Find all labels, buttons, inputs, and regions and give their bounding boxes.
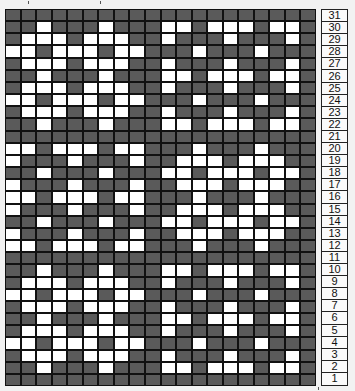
chart-cell xyxy=(177,180,191,190)
chart-cell xyxy=(193,46,207,56)
chart-cell xyxy=(22,144,36,154)
chart-cell xyxy=(68,132,82,142)
chart-cell xyxy=(255,217,269,227)
chart-cell xyxy=(130,71,144,81)
chart-cell xyxy=(37,22,51,32)
chart-cell xyxy=(68,46,82,56)
chart-cell xyxy=(84,83,98,93)
chart-cell xyxy=(270,338,284,348)
chart-cell xyxy=(177,375,191,385)
chart-cell xyxy=(162,375,176,385)
chart-cell xyxy=(99,314,113,324)
chart-cell xyxy=(255,192,269,202)
chart-cell xyxy=(84,241,98,251)
chart-cell xyxy=(53,217,67,227)
chart-cell xyxy=(301,338,315,348)
chart-cell xyxy=(239,351,253,361)
chart-cell xyxy=(130,217,144,227)
chart-cell xyxy=(130,302,144,312)
chart-cell xyxy=(115,132,129,142)
chart-cell xyxy=(22,314,36,324)
chart-cell xyxy=(115,71,129,81)
chart-cell xyxy=(99,338,113,348)
chart-cell xyxy=(115,363,129,373)
chart-cell xyxy=(130,34,144,44)
chart-cell xyxy=(53,351,67,361)
chart-cell xyxy=(99,59,113,69)
chart-cell xyxy=(37,217,51,227)
chart-cell xyxy=(22,83,36,93)
chart-cell xyxy=(162,156,176,166)
chart-cell xyxy=(208,326,222,336)
chart-cell xyxy=(37,326,51,336)
chart-cell xyxy=(53,229,67,239)
chart-cell xyxy=(53,241,67,251)
chart-cell xyxy=(6,326,20,336)
chart-cell xyxy=(146,363,160,373)
chart-cell xyxy=(162,144,176,154)
row-number-label: 24 xyxy=(322,95,347,107)
chart-cell xyxy=(6,278,20,288)
chart-cell xyxy=(162,59,176,69)
chart-cell xyxy=(68,180,82,190)
chart-cell xyxy=(270,265,284,275)
chart-cell xyxy=(270,180,284,190)
chart-cell xyxy=(286,168,300,178)
chart-cell xyxy=(99,107,113,117)
chart-cell xyxy=(239,290,253,300)
chart-cell xyxy=(224,314,238,324)
chart-cell xyxy=(208,144,222,154)
chart-cell xyxy=(6,46,20,56)
chart-cell xyxy=(37,180,51,190)
chart-cell xyxy=(208,10,222,20)
chart-cell xyxy=(146,156,160,166)
chart-cell xyxy=(6,229,20,239)
chart-cell xyxy=(193,375,207,385)
chart-cell xyxy=(270,375,284,385)
chart-cell xyxy=(37,59,51,69)
chart-cell xyxy=(177,314,191,324)
chart-cell xyxy=(68,119,82,129)
chart-cell xyxy=(6,302,20,312)
chart-cell xyxy=(255,71,269,81)
chart-cell xyxy=(286,314,300,324)
chart-cell xyxy=(224,253,238,263)
chart-cell xyxy=(146,180,160,190)
chart-cell xyxy=(177,241,191,251)
chart-cell xyxy=(208,217,222,227)
chart-cell xyxy=(255,302,269,312)
chart-cell xyxy=(115,205,129,215)
chart-cell xyxy=(255,168,269,178)
chart-cell xyxy=(68,290,82,300)
chart-cell xyxy=(22,168,36,178)
chart-cell xyxy=(146,59,160,69)
chart-cell xyxy=(99,119,113,129)
chart-cell xyxy=(301,107,315,117)
chart-cell xyxy=(177,168,191,178)
chart-cell xyxy=(208,241,222,251)
chart-cell xyxy=(255,338,269,348)
chart-cell xyxy=(255,205,269,215)
chart-cell xyxy=(99,132,113,142)
chart-cell xyxy=(99,278,113,288)
chart-cell xyxy=(68,71,82,81)
chart-cell xyxy=(37,156,51,166)
chart-cell xyxy=(22,107,36,117)
chart-cell xyxy=(84,46,98,56)
chart-cell xyxy=(193,156,207,166)
top-tick-mark xyxy=(100,1,101,4)
chart-cell xyxy=(301,83,315,93)
chart-cell xyxy=(53,363,67,373)
chart-cell xyxy=(6,375,20,385)
chart-cell xyxy=(270,217,284,227)
chart-cell xyxy=(6,351,20,361)
chart-cell xyxy=(22,229,36,239)
chart-cell xyxy=(84,229,98,239)
chart-cell xyxy=(84,10,98,20)
chart-cell xyxy=(146,34,160,44)
chart-cell xyxy=(270,71,284,81)
chart-cell xyxy=(286,132,300,142)
chart-cell xyxy=(162,265,176,275)
chart-cell xyxy=(146,351,160,361)
chart-cell xyxy=(68,363,82,373)
